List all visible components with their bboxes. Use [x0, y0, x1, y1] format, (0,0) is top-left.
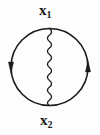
vertex-label-x2-subscript: 2: [48, 119, 53, 130]
vertex-label-x2: x2: [40, 113, 53, 128]
feynman-diagram-figure: x1 x2: [0, 0, 100, 135]
vertex-label-x1-symbol: x: [39, 2, 47, 18]
arrow-right-icon: [85, 61, 90, 73]
vertex-label-x1-subscript: 1: [47, 9, 52, 20]
arrow-left-icon: [8, 62, 13, 74]
vertex-label-x2-symbol: x: [40, 112, 48, 128]
vertex-label-x1: x1: [39, 3, 52, 18]
photon-propagator-wavy-line: [47, 29, 51, 106]
